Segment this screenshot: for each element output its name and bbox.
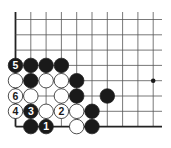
- black-stone-disc: [85, 104, 100, 119]
- white-stone-disc: [54, 73, 69, 88]
- white-stone: [69, 119, 84, 134]
- move-number-label: 6: [13, 90, 19, 102]
- white-stone-6: 6: [8, 89, 23, 104]
- black-stone-5: 5: [8, 58, 23, 73]
- white-stone: [39, 73, 54, 88]
- move-number-label: 2: [58, 105, 64, 117]
- black-stone-1: 1: [39, 119, 54, 134]
- black-stone-disc: [85, 119, 100, 134]
- hoshi-points: [151, 78, 156, 83]
- black-stone: [24, 58, 39, 73]
- black-stone: [24, 73, 39, 88]
- black-stone-disc: [54, 58, 69, 73]
- move-number-label: 1: [43, 120, 49, 132]
- white-stone-disc: [8, 73, 23, 88]
- move-number-label: 5: [13, 59, 19, 71]
- white-stone-disc: [39, 73, 54, 88]
- white-stone-disc: [39, 104, 54, 119]
- black-stone-disc: [69, 89, 84, 104]
- black-stone: [39, 58, 54, 73]
- black-stone-disc: [100, 89, 115, 104]
- white-stone-disc: [54, 89, 69, 104]
- black-stone-3: 3: [24, 104, 39, 119]
- white-stone-2: 2: [54, 104, 69, 119]
- black-stone-disc: [24, 119, 39, 134]
- black-stone-disc: [24, 73, 39, 88]
- black-stone: [54, 58, 69, 73]
- black-stone: [69, 73, 84, 88]
- black-stone-disc: [69, 73, 84, 88]
- black-stone: [85, 119, 100, 134]
- black-stone: [24, 119, 39, 134]
- white-stone-4: 4: [8, 104, 23, 119]
- black-stone: [100, 89, 115, 104]
- black-stone-disc: [24, 58, 39, 73]
- hoshi-point: [151, 78, 156, 83]
- white-stone-disc: [69, 119, 84, 134]
- move-number-label: 3: [28, 105, 34, 117]
- white-stone: [39, 104, 54, 119]
- white-stone: [54, 89, 69, 104]
- move-number-label: 4: [13, 105, 19, 117]
- white-stone: [69, 104, 84, 119]
- black-stone: [69, 89, 84, 104]
- white-stone-disc: [69, 104, 84, 119]
- black-stone: [85, 104, 100, 119]
- white-stone: [8, 73, 23, 88]
- go-board: 564321: [0, 0, 171, 148]
- white-stone: [24, 89, 39, 104]
- white-stone: [54, 73, 69, 88]
- black-stone-disc: [39, 58, 54, 73]
- white-stone-disc: [24, 89, 39, 104]
